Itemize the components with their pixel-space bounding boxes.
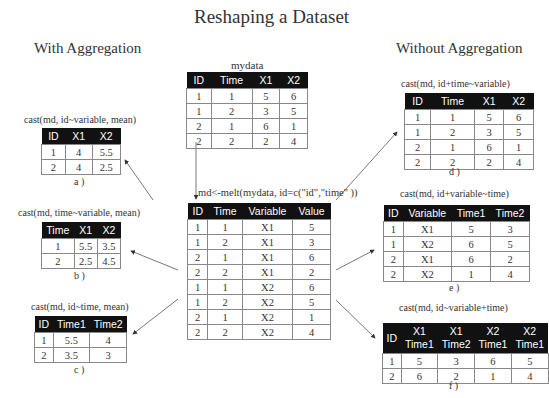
cell: 2 <box>405 140 431 155</box>
cell: 1 <box>383 354 402 369</box>
cell: 5 <box>491 237 530 252</box>
table-row: 242.5 <box>42 160 121 175</box>
cell: X2 <box>242 280 293 295</box>
cell: 4 <box>293 325 331 340</box>
cast-e-label: cast(md, id+variable~time) <box>400 188 509 199</box>
table-row: 1X153 <box>384 222 530 237</box>
cast-b-label: cast(md, time~variable, mean) <box>18 207 140 218</box>
cell: 2 <box>384 267 404 282</box>
col-header: ID <box>383 323 402 354</box>
col-header: Time <box>431 93 475 110</box>
cell: 5 <box>452 222 491 237</box>
cell: 5 <box>511 354 548 369</box>
col-header: X1 <box>474 93 504 110</box>
cell: 2.5 <box>92 160 120 175</box>
cell: 3 <box>252 104 280 119</box>
col-header: Time <box>211 72 252 89</box>
table-row: 26214 <box>383 369 549 384</box>
cell: 2 <box>252 134 280 149</box>
cast-c-label: cast(md, id~time, mean) <box>31 301 129 312</box>
cell: X1 <box>403 222 451 237</box>
cast-c-table: IDTime1Time2 15.54 23.53 <box>34 316 127 363</box>
cell: 4 <box>511 369 548 384</box>
cast-a-label: cast(md, id~variable, mean) <box>24 114 136 125</box>
table-row: 21X16 <box>188 250 331 265</box>
cell: 1 <box>384 222 404 237</box>
table-row: 2X214 <box>384 267 530 282</box>
col-header: ID <box>187 72 212 89</box>
cell: 2 <box>188 325 208 340</box>
cell: 2 <box>431 125 475 140</box>
cell: 6 <box>475 354 512 369</box>
cast-f-label: cast(md, id~variable+time) <box>399 302 508 313</box>
col-header: Time1 <box>53 316 90 333</box>
cell: 2 <box>208 295 242 310</box>
col-header: X1 <box>65 128 92 145</box>
cell: 6 <box>293 250 331 265</box>
cast-f-caption: f ) <box>449 380 458 391</box>
cast-b-table: TimeX1X2 15.53.5 22.54.5 <box>41 222 121 269</box>
cell: 5 <box>474 110 504 125</box>
mydata-table: ID Time X1 X2 1156 1235 2161 2224 <box>186 72 308 149</box>
cell: 2 <box>188 265 208 280</box>
table-row: 23.53 <box>35 348 127 363</box>
col-header: Value <box>293 203 331 220</box>
cell: 1 <box>405 125 431 140</box>
table-row: 1235 <box>187 104 308 119</box>
cell: X1 <box>242 220 293 235</box>
col-header: Time2 <box>90 316 127 333</box>
cell: 6 <box>401 369 438 384</box>
cell: 6 <box>452 237 491 252</box>
table-row: 2161 <box>187 119 308 134</box>
cell: 4 <box>90 333 127 348</box>
cast-a-table: IDX1X2 145.5 242.5 <box>41 128 121 175</box>
cell: 1 <box>188 295 208 310</box>
table-row: 12X13 <box>188 235 331 250</box>
cell: 3.5 <box>53 348 90 363</box>
cell: 4 <box>504 155 534 170</box>
col-header: Time2 <box>491 205 530 222</box>
table-row: 11X26 <box>188 280 331 295</box>
cell: X2 <box>242 310 293 325</box>
header-bottom: Time1 <box>405 338 434 350</box>
cell: 5.5 <box>74 239 97 254</box>
cell: X1 <box>242 265 293 280</box>
cell: 1 <box>42 239 75 254</box>
cell: 1 <box>188 280 208 295</box>
header-top: X2 <box>523 325 536 337</box>
mydata-label: mydata <box>231 59 263 71</box>
cell: 1 <box>188 235 208 250</box>
table-row: 11X15 <box>188 220 331 235</box>
col-header: X2 <box>504 93 534 110</box>
header-top: X1 <box>413 325 426 337</box>
cell: 1 <box>431 140 475 155</box>
cell: 2 <box>188 250 208 265</box>
table-row: 2161 <box>405 140 534 155</box>
table-row: 21X21 <box>188 310 331 325</box>
col-header: Time1 <box>452 205 491 222</box>
cell: 6 <box>504 110 534 125</box>
cell: 6 <box>474 140 504 155</box>
table-row: 15365 <box>383 354 549 369</box>
cast-d-table: IDTimeX1X2 1156 1235 2161 2224 <box>404 93 534 170</box>
cell: 1 <box>211 119 252 134</box>
table-row: 1X265 <box>384 237 530 252</box>
col-header: ID <box>35 316 54 333</box>
cell: 4.5 <box>97 254 120 269</box>
col-header: X2 <box>280 72 308 89</box>
table-row: 22X24 <box>188 325 331 340</box>
cell: 2 <box>491 252 530 267</box>
table-row: 15.54 <box>35 333 127 348</box>
melt-label: md<-melt(mydata, id=c("id","time" )) <box>198 187 358 198</box>
cell: 2 <box>208 325 242 340</box>
cell: 5 <box>293 295 331 310</box>
col-header: ID <box>188 203 208 220</box>
cell: 1 <box>208 280 242 295</box>
cell: 1 <box>188 220 208 235</box>
col-header: ID <box>405 93 431 110</box>
cell: 1 <box>475 369 512 384</box>
cell: 1 <box>504 140 534 155</box>
col-header: X2Time1 <box>511 323 548 354</box>
cast-a-caption: a ) <box>74 176 84 187</box>
cell: 2 <box>384 252 404 267</box>
